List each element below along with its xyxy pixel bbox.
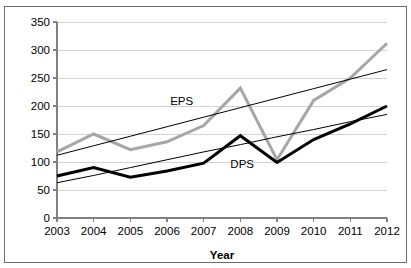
x-axis-tick-label: 2012 bbox=[374, 225, 400, 237]
y-axis-tick-label: 150 bbox=[31, 128, 50, 140]
x-axis-tick-labels: 2003200420052006200720082009201020112012 bbox=[44, 225, 400, 237]
y-axis-tickmarks bbox=[53, 22, 57, 218]
x-axis-tick-label: 2005 bbox=[118, 225, 144, 237]
y-axis-tick-label: 300 bbox=[31, 44, 50, 56]
y-axis-tick-label: 200 bbox=[31, 100, 50, 112]
x-axis-tick-label: 2004 bbox=[81, 225, 107, 237]
x-axis-tick-label: 2003 bbox=[44, 225, 70, 237]
x-axis-tick-label: 2010 bbox=[301, 225, 327, 237]
x-axis-tickmarks bbox=[57, 218, 387, 222]
y-axis-tick-labels: 050100150200250300350 bbox=[31, 16, 50, 224]
x-axis-title: Year bbox=[210, 249, 235, 261]
annotation-dps: DPS bbox=[230, 158, 254, 170]
chart-figure: 050100150200250300350 200320042005200620… bbox=[0, 0, 411, 268]
y-axis-tick-label: 350 bbox=[31, 16, 50, 28]
y-axis-tick-label: 250 bbox=[31, 72, 50, 84]
line-chart: 050100150200250300350 200320042005200620… bbox=[0, 0, 411, 268]
x-axis-tick-label: 2009 bbox=[264, 225, 290, 237]
y-axis-tick-label: 100 bbox=[31, 156, 50, 168]
y-axis-tick-label: 50 bbox=[37, 184, 50, 196]
plot-area-background bbox=[57, 22, 387, 218]
y-axis-tick-label: 0 bbox=[44, 212, 50, 224]
x-axis-tick-label: 2011 bbox=[338, 225, 363, 237]
x-axis-tick-label: 2006 bbox=[154, 225, 180, 237]
annotation-eps: EPS bbox=[170, 95, 193, 107]
x-axis-tick-label: 2008 bbox=[228, 225, 254, 237]
x-axis-tick-label: 2007 bbox=[191, 225, 217, 237]
